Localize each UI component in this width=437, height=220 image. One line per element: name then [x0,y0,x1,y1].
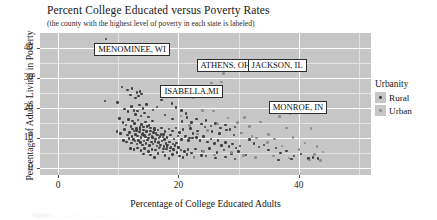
data-point-rural [133,122,136,125]
data-point-rural [137,119,140,122]
data-point-urban [254,156,257,159]
data-point-urban [285,127,288,130]
legend-item-urban[interactable]: Urban [375,105,412,116]
x-tick-label: 20 [163,180,193,190]
data-point-rural [164,114,167,117]
data-point-rural [131,87,134,90]
chart-title: Percent College Educated versus Poverty … [47,4,270,16]
data-point-rural [178,131,181,134]
data-point-rural [139,126,142,129]
data-point-rural [136,91,139,94]
data-point-rural [152,109,155,112]
data-point-rural [275,147,278,150]
data-point-urban [313,153,316,156]
gridline-major-horizontal [40,168,371,169]
data-point-rural [210,125,213,128]
data-point-urban [188,124,191,127]
data-point-rural [277,159,280,162]
data-point-rural [159,135,162,138]
data-point-rural [189,127,192,130]
data-point-rural [186,153,189,156]
data-point-urban [242,154,245,157]
data-point-rural [223,149,226,152]
data-point-rural [165,148,168,151]
data-point-rural [204,126,207,129]
data-point-urban [230,151,233,154]
data-point-rural [263,144,266,147]
gridline-major-horizontal [40,138,371,139]
data-point-rural [145,142,148,145]
data-point-rural [153,127,156,130]
data-point-rural [171,153,174,156]
data-point-urban [310,127,313,130]
data-point-rural [126,89,129,92]
data-point-urban [259,121,262,124]
data-point-rural [210,138,213,141]
data-point-rural [187,139,190,142]
data-point-rural [245,154,248,157]
legend-label: Rural [389,93,409,103]
data-point-rural [129,147,132,150]
data-point-rural [145,130,148,133]
data-point-urban [316,145,319,148]
data-point-rural [290,158,293,161]
data-point-urban [227,117,230,120]
y-tick-label: 30 [11,72,33,82]
data-point-rural [136,110,139,113]
data-point-rural [156,106,159,109]
data-point-rural [235,147,238,150]
data-point-rural [224,124,227,127]
data-point-rural [258,146,261,149]
data-point-urban [251,135,254,138]
data-point-urban [240,132,243,135]
legend-item-rural[interactable]: Rural [375,92,412,103]
data-point-rural [194,148,197,151]
data-point-rural [219,127,222,130]
data-point-rural [178,155,181,158]
data-point-rural [166,145,169,148]
legend-label: Urban [389,106,412,116]
data-point-urban [292,136,295,139]
data-point-rural [162,148,165,151]
county-callout-label: ATHENS, OH [197,59,255,72]
data-point-rural [185,112,188,115]
figure-caption-fragment: Figure .... ........ ...... ........ ...… [32,211,432,220]
data-point-rural [134,97,137,100]
gridline-minor-horizontal [40,123,371,124]
data-point-rural [146,139,149,142]
data-point-rural [151,136,154,139]
gridline-minor-vertical [239,33,240,175]
data-point-rural [151,148,154,151]
data-point-urban [298,148,301,151]
data-point-rural [200,123,203,126]
x-tick-mark [299,175,300,178]
data-point-rural [213,142,216,145]
data-point-urban [193,156,196,159]
y-tick-mark [37,48,40,49]
data-point-rural [138,104,141,107]
data-point-rural [143,112,146,115]
data-point-rural [144,136,147,139]
data-point-rural [148,134,151,137]
data-point-rural [199,139,202,142]
data-point-rural [175,127,178,130]
legend-swatch-icon [375,92,386,103]
data-point-urban [266,141,269,144]
data-point-rural [127,118,130,121]
data-point-rural [191,137,194,140]
y-tick-mark [37,78,40,79]
data-point-rural [181,120,184,123]
data-point-rural [206,141,209,144]
data-point-urban [248,125,251,128]
y-tick-mark [37,168,40,169]
data-point-rural [130,142,133,145]
data-point-urban [236,121,239,124]
data-point-rural [187,148,190,151]
data-point-rural [152,143,155,146]
data-point-rural [214,157,217,160]
data-point-rural [233,134,236,137]
data-point-rural [168,141,171,144]
data-point-rural [134,113,137,116]
data-point-rural [228,145,231,148]
data-point-rural [140,115,143,118]
